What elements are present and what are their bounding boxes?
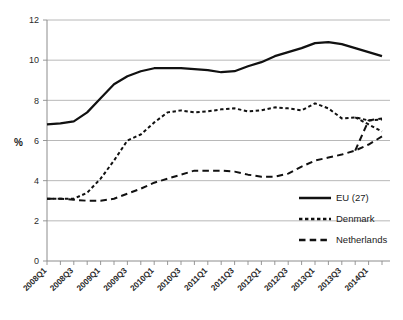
legend-item-netherlands[interactable]: Netherlands — [299, 234, 387, 245]
series-line-tail-netherlands — [355, 118, 382, 150]
series-line-denmark — [47, 103, 382, 198]
x-tick-label: 2008Q1 — [21, 266, 48, 293]
y-tick-label: 8 — [34, 96, 39, 106]
y-tick-label: 10 — [29, 55, 39, 65]
x-tick-label: 2009Q1 — [75, 266, 102, 293]
y-tick-label: 12 — [29, 15, 39, 25]
chart-canvas: 024681012 2008Q12008Q32009Q12009Q32010Q1… — [0, 0, 403, 320]
legend-label-netherlands: Netherlands — [336, 234, 387, 245]
y-tick-label: 2 — [34, 216, 39, 226]
x-tick-label: 2013Q1 — [289, 266, 316, 293]
line-chart-unemployment: 024681012 2008Q12008Q32009Q12009Q32010Q1… — [0, 0, 403, 320]
y-tick-label: 6 — [34, 136, 39, 146]
x-tick-label: 2011Q3 — [209, 266, 236, 293]
y-tick-label: 4 — [34, 176, 39, 186]
x-tick-label: 2009Q3 — [102, 266, 129, 293]
legend-label-eu-27: EU (27) — [336, 192, 369, 203]
y-axis-tick-labels: 024681012 — [29, 15, 39, 266]
x-tick-label: 2012Q1 — [236, 266, 263, 293]
legend-item-eu-27[interactable]: EU (27) — [299, 192, 369, 203]
legend-item-denmark[interactable]: Denmark — [299, 213, 375, 224]
y-tick-label: 0 — [34, 256, 39, 266]
x-tick-label: 2010Q3 — [155, 266, 182, 293]
x-tick-label: 2013Q3 — [316, 266, 343, 293]
series-line-netherlands — [47, 136, 382, 200]
x-axis-tick-marks — [47, 261, 382, 265]
x-tick-label: 2010Q1 — [129, 266, 156, 293]
data-series — [47, 42, 382, 201]
x-tick-label: 2008Q3 — [48, 266, 75, 293]
y-axis-title: % — [14, 137, 23, 148]
x-axis-tick-labels: 2008Q12008Q32009Q12009Q32010Q12010Q32011… — [21, 266, 370, 293]
gridlines — [43, 20, 390, 261]
legend-label-denmark: Denmark — [336, 213, 375, 224]
x-tick-label: 2012Q3 — [263, 266, 290, 293]
x-tick-label: 2014Q1 — [343, 266, 370, 293]
chart-legend: EU (27)DenmarkNetherlands — [299, 192, 387, 245]
x-tick-label: 2011Q1 — [183, 266, 210, 293]
